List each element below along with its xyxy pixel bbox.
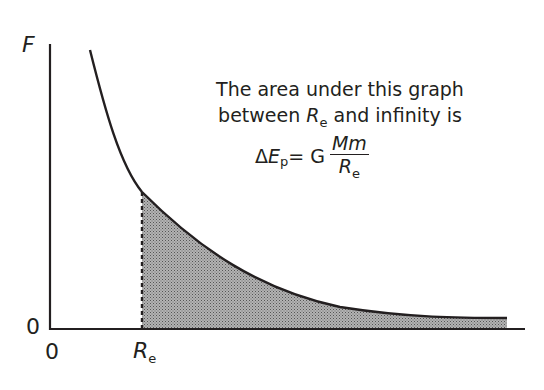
y-axis-label: F	[22, 34, 35, 56]
equation-fraction: Mm Re	[330, 132, 369, 180]
x-origin-label: 0	[45, 341, 59, 363]
annotation-line2: between Re and infinity is	[190, 102, 490, 131]
y-origin-label: 0	[26, 316, 40, 338]
x-marker-re: Re	[133, 340, 156, 362]
energy-equation: ΔEp = G Mm Re	[255, 132, 369, 180]
annotation-line1: The area under this graph	[190, 76, 490, 102]
graph-canvas	[0, 0, 544, 390]
shaded-area	[142, 192, 507, 329]
area-annotation: The area under this graph between Re and…	[190, 76, 490, 131]
